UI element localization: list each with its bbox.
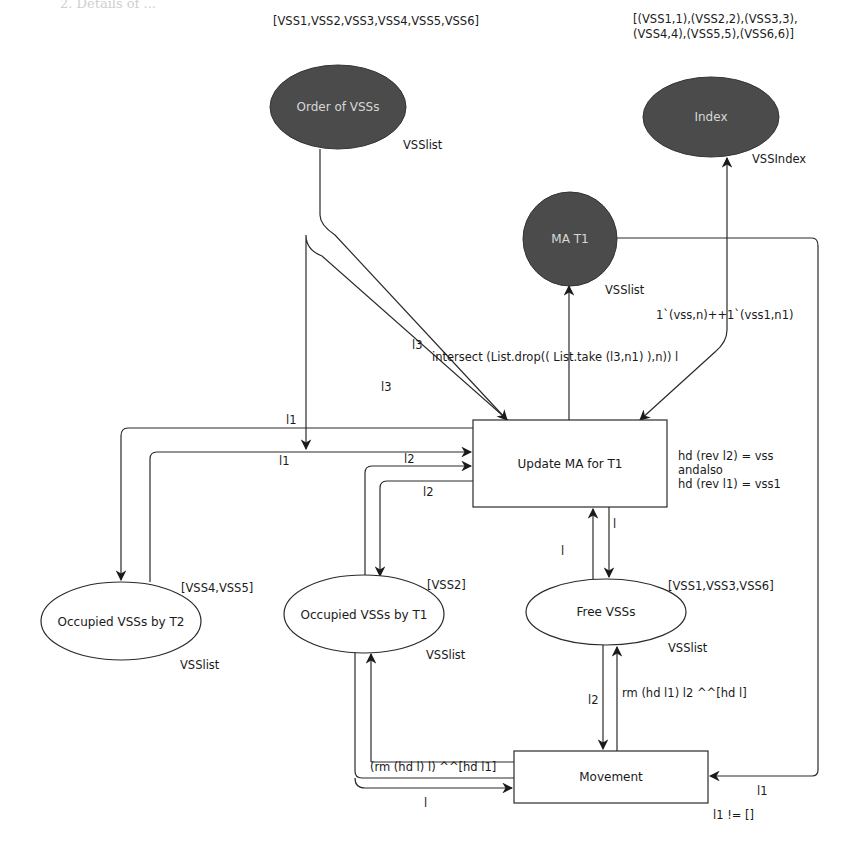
order-of-vss-marking: [VSS1,VSS2,VSS3,VSS4,VSS5,VSS6] (273, 14, 479, 28)
arc-t2-to-update (150, 452, 471, 582)
arc-label-index: 1`(vss,n)++1`(vss1,n1) (656, 308, 793, 322)
arc-label-t1-to-move: l (424, 796, 427, 810)
arc-label-ma-t1: intersect (List.drop(( List.take (l3,n1)… (432, 350, 678, 364)
place-index-label[interactable]: Index (694, 110, 727, 124)
arc-label-move-to-free: rm (hd l1) l2 ^^[hd l] (622, 686, 747, 700)
arc-t1-to-update (365, 466, 471, 576)
occupied-t1-marking: [VSS2] (427, 578, 466, 592)
arc-label-free-down: l (613, 517, 616, 531)
place-ma-t1-label[interactable]: MA T1 (551, 232, 588, 246)
occupied-t2-type: VSSlist (180, 658, 219, 672)
arc-label-ma-to-move: l1 (757, 784, 768, 798)
free-vss-type: VSSlist (668, 641, 707, 655)
place-free-vss-label[interactable]: Free VSSs (577, 605, 636, 619)
index-marking-line2: (VSS4,4),(VSS5,5),(VSS6,6)] (633, 27, 794, 41)
update-ma-guard-line1: hd (rev l2) = vss (678, 449, 773, 463)
arc-label-free-up: l (561, 544, 564, 558)
arc-label-t2-out: l1 (286, 413, 297, 427)
arc-update-to-order (306, 235, 510, 449)
arc-order-to-update (320, 149, 507, 420)
arc-label-t1-out: l2 (423, 485, 434, 499)
transition-update-ma-label[interactable]: Update MA for T1 (518, 457, 623, 471)
place-occupied-t1-label[interactable]: Occupied VSSs by T1 (300, 608, 427, 622)
petri-net-canvas (0, 0, 856, 854)
arc-label-move-to-t1: (rm (hd l) l) ^^[hd l1] (370, 760, 496, 774)
transition-movement-label[interactable]: Movement (579, 770, 643, 784)
arc-t1-to-movement-b (355, 778, 512, 788)
movement-guard: l1 != [] (713, 808, 754, 822)
order-of-vss-type: VSSlist (403, 138, 442, 152)
free-vss-marking: [VSS1,VSS3,VSS6] (668, 579, 774, 593)
arc-update-to-t2 (121, 428, 473, 580)
arc-label-order-in: l3 (412, 338, 423, 352)
occupied-t1-type: VSSlist (426, 648, 465, 662)
arc-label-t2-in: l1 (279, 454, 290, 468)
place-occupied-t2-label[interactable]: Occupied VSSs by T2 (57, 615, 184, 629)
arc-label-t1-in: l2 (404, 452, 415, 466)
arc-update-to-index (640, 158, 727, 420)
occupied-t2-marking: [VSS4,VSS5] (181, 581, 253, 595)
place-order-of-vss-label[interactable]: Order of VSSs (297, 100, 380, 114)
update-ma-guard-line3: hd (rev l1) = vss1 (678, 477, 781, 491)
arc-label-order-out: l3 (381, 380, 392, 394)
index-type: VSSIndex (752, 152, 806, 166)
ma-t1-type: VSSlist (605, 283, 644, 297)
index-marking-line1: [(VSS1,1),(VSS2,2),(VSS3,3), (633, 12, 798, 26)
update-ma-guard-line2: andalso (678, 463, 723, 477)
arc-label-free-to-move: l2 (588, 693, 599, 707)
